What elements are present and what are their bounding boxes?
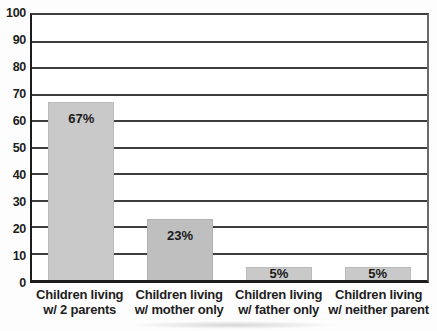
y-tick-label: 70 [0, 87, 26, 101]
y-tick-label: 80 [0, 60, 26, 74]
category-label-line2: w/ neither parent [328, 302, 429, 317]
y-tick-label: 20 [0, 222, 26, 236]
y-tick-label: 30 [0, 195, 26, 209]
bar-children-2-parents: 67% [48, 102, 114, 280]
bar-slot: 5% [230, 15, 329, 280]
bar-chart: 100 90 80 70 60 50 40 30 20 10 0 67% [0, 0, 437, 331]
y-tick-label: 60 [0, 114, 26, 128]
y-tick-label: 10 [0, 249, 26, 263]
bar-children-father-only: 5% [246, 267, 312, 280]
y-axis: 100 90 80 70 60 50 40 30 20 10 0 [0, 13, 26, 283]
category-label-line1: Children living [229, 287, 328, 302]
y-tick-label: 100 [0, 6, 26, 20]
category-label-line1: Children living [328, 287, 429, 302]
category-label-mother-only: Children living w/ mother only [129, 287, 228, 317]
bar-value-label: 5% [247, 266, 311, 281]
category-label-2-parents: Children living w/ 2 parents [30, 287, 129, 317]
bar-value-label: 23% [148, 228, 212, 243]
y-tick-label: 50 [0, 141, 26, 155]
bar-value-label: 67% [49, 111, 113, 126]
bars-container: 67% 23% 5% 5% [32, 15, 427, 280]
bar-slot: 23% [131, 15, 230, 280]
bar-children-mother-only: 23% [147, 219, 213, 280]
plot-area: 67% 23% 5% 5% [30, 13, 429, 283]
y-tick-label: 40 [0, 168, 26, 182]
x-axis: Children living w/ 2 parents Children li… [30, 287, 429, 317]
category-label-line1: Children living [129, 287, 228, 302]
category-label-line2: w/ father only [229, 302, 328, 317]
bar-value-label: 5% [346, 266, 410, 281]
bar-slot: 67% [32, 15, 131, 280]
category-label-father-only: Children living w/ father only [229, 287, 328, 317]
bar-slot: 5% [328, 15, 427, 280]
category-label-line2: w/ mother only [129, 302, 228, 317]
y-tick-label: 90 [0, 33, 26, 47]
category-label-line2: w/ 2 parents [30, 302, 129, 317]
category-label-neither-parent: Children living w/ neither parent [328, 287, 429, 317]
category-label-line1: Children living [30, 287, 129, 302]
scan-smudge-artifact [128, 321, 338, 329]
bar-children-neither-parent: 5% [345, 267, 411, 280]
y-tick-label: 0 [0, 276, 26, 290]
